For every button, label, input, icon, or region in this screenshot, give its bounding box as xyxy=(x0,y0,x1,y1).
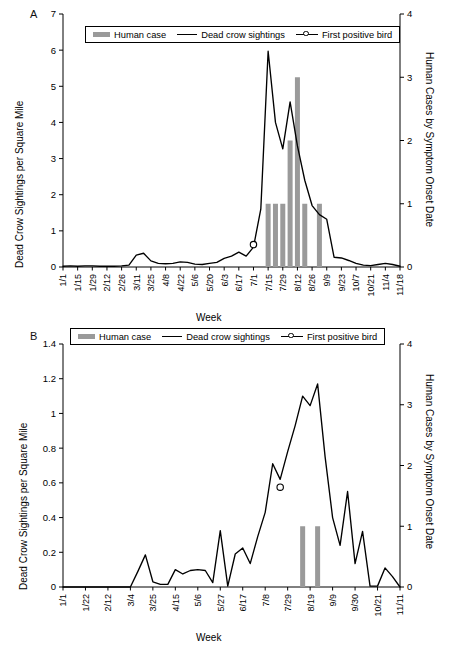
x-tick-label: 7/1 xyxy=(249,274,259,287)
y-tick-label: 1 xyxy=(51,408,56,419)
x-tick-label: 3/25 xyxy=(146,274,156,292)
human-case-bar xyxy=(280,204,285,267)
x-tick-label: 4/15 xyxy=(171,594,181,612)
x-tick-label: 5/20 xyxy=(205,274,215,292)
x-tick-label: 8/26 xyxy=(307,274,317,292)
y-tick-label: 4 xyxy=(51,117,56,128)
y-tick-label: 6 xyxy=(51,45,56,56)
y-tick-label: 0.2 xyxy=(43,547,56,558)
y2-tick-label: 1 xyxy=(407,198,412,209)
x-tick-label: 9/9 xyxy=(328,594,338,607)
human-case-bar xyxy=(266,204,271,267)
human-case-bar xyxy=(315,526,320,587)
x-tick-label: 10/7 xyxy=(351,274,361,292)
dead-crow-sightings-line xyxy=(63,51,400,266)
x-tick-label: 2/12 xyxy=(102,274,112,292)
x-tick-label: 5/27 xyxy=(216,594,226,612)
x-tick-label: 7/8 xyxy=(261,594,271,607)
y-tick-label: 0 xyxy=(51,261,56,272)
y-tick-label: 1 xyxy=(51,225,56,236)
panel-a-plot: 01234567012341/11/151/292/122/263/113/25… xyxy=(0,0,449,328)
y-tick-label: 0.6 xyxy=(43,477,56,488)
x-tick-label: 3/4 xyxy=(126,594,136,607)
x-tick-label: 4/8 xyxy=(161,274,171,287)
human-case-bar xyxy=(302,204,307,267)
human-case-bar xyxy=(300,526,305,587)
x-tick-label: 1/15 xyxy=(73,274,83,292)
x-tick-label: 10/21 xyxy=(373,594,383,617)
x-tick-label: 8/19 xyxy=(306,594,316,612)
x-tick-label: 7/15 xyxy=(264,274,274,292)
x-tick-label: 1/29 xyxy=(88,274,98,292)
y-tick-label: 3 xyxy=(51,153,56,164)
y-tick-label: 2 xyxy=(51,189,56,200)
x-tick-label: 10/21 xyxy=(366,274,376,297)
dead-crow-sightings-line xyxy=(63,384,400,587)
y-tick-label: 7 xyxy=(51,8,56,19)
x-tick-label: 1/22 xyxy=(81,594,91,612)
y2-tick-label: 2 xyxy=(407,460,412,471)
x-tick-label: 7/29 xyxy=(283,594,293,612)
panel-b: B Dead Crow Sightings per Square Mile Hu… xyxy=(0,322,449,648)
x-tick-label: 9/23 xyxy=(337,274,347,292)
x-tick-label: 9/9 xyxy=(322,274,332,287)
panel-b-plot: 00.20.40.60.811.21.4012341/11/222/123/43… xyxy=(0,322,449,648)
y2-tick-label: 3 xyxy=(407,72,412,83)
x-tick-label: 7/29 xyxy=(278,274,288,292)
panel-a: A Dead Crow Sightings per Square Mile Hu… xyxy=(0,0,449,328)
y-tick-label: 0.8 xyxy=(43,443,56,454)
y2-tick-label: 0 xyxy=(407,581,412,592)
x-tick-label: 5/6 xyxy=(193,594,203,607)
x-tick-label: 5/6 xyxy=(190,274,200,287)
x-tick-label: 9/30 xyxy=(350,594,360,612)
first-positive-bird-marker xyxy=(250,241,256,247)
first-positive-bird-marker xyxy=(277,484,283,490)
x-tick-label: 11/4 xyxy=(381,274,391,291)
x-tick-label: 6/17 xyxy=(238,594,248,612)
x-tick-label: 3/25 xyxy=(148,594,158,612)
y2-tick-label: 4 xyxy=(407,338,412,349)
x-tick-label: 6/3 xyxy=(220,274,230,287)
y-tick-label: 1.4 xyxy=(43,338,56,349)
y-tick-label: 0 xyxy=(51,581,56,592)
y-tick-label: 1.2 xyxy=(43,373,56,384)
y2-tick-label: 2 xyxy=(407,135,412,146)
figure-container: A Dead Crow Sightings per Square Mile Hu… xyxy=(0,0,449,648)
x-tick-label: 2/26 xyxy=(117,274,127,292)
x-tick-label: 4/22 xyxy=(176,274,186,292)
x-tick-label: 6/17 xyxy=(234,274,244,292)
x-tick-label: 11/18 xyxy=(395,274,405,296)
y-tick-label: 5 xyxy=(51,81,56,92)
x-tick-label: 1/1 xyxy=(58,274,68,287)
human-case-bar xyxy=(288,141,293,268)
human-case-bar xyxy=(273,204,278,267)
y2-tick-label: 3 xyxy=(407,399,412,410)
y-tick-label: 0.4 xyxy=(43,512,56,523)
x-tick-label: 11/11 xyxy=(395,594,405,615)
y2-tick-label: 1 xyxy=(407,521,412,532)
x-tick-label: 3/11 xyxy=(132,274,142,291)
y2-tick-label: 0 xyxy=(407,261,412,272)
y2-tick-label: 4 xyxy=(407,8,412,19)
x-tick-label: 8/12 xyxy=(293,274,303,292)
x-tick-label: 2/12 xyxy=(103,594,113,612)
human-case-bar xyxy=(295,77,300,267)
x-tick-label: 1/1 xyxy=(58,594,68,607)
